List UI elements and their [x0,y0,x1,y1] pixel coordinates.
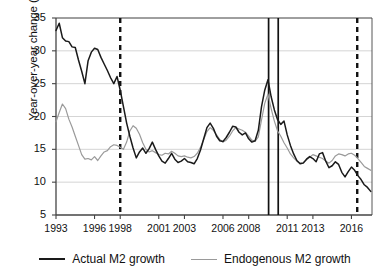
x-tick-label: 2003 [164,222,204,234]
y-tick-label: 20 [16,110,46,122]
chart-plot-area [0,0,390,278]
x-tick-label: 1993 [36,222,76,234]
x-tick-label: 2016 [331,222,371,234]
series-line-endogenous [56,94,371,170]
legend-item-endogenous: Endogenous M2 growth [191,252,351,266]
y-tick-label: 10 [16,175,46,187]
x-tick-label: 2013 [293,222,333,234]
y-tick-label: 15 [16,142,46,154]
legend-line-endogenous-icon [191,259,217,260]
legend-line-actual-icon [39,258,65,260]
y-tick-label: 35 [16,11,46,23]
legend-label-endogenous: Endogenous M2 growth [224,252,351,266]
chart-legend: Actual M2 growth Endogenous M2 growth [0,252,390,266]
legend-label-actual: Actual M2 growth [72,252,165,266]
x-tick-label: 2008 [229,222,269,234]
y-tick-label: 30 [16,44,46,56]
y-tick-label: 5 [16,208,46,220]
y-tick-label: 25 [16,77,46,89]
legend-item-actual: Actual M2 growth [39,252,165,266]
x-tick-label: 1998 [100,222,140,234]
chart-figure: Year-over-year change (%) Actual M2 grow… [0,0,390,278]
series-line-actual [56,23,371,191]
